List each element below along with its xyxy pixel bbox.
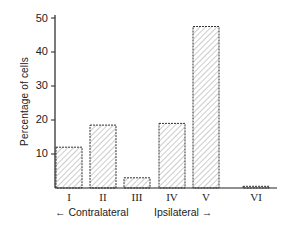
x-tick-label: IV bbox=[159, 191, 185, 203]
y-tick-label: 50 bbox=[28, 12, 48, 24]
ipsilateral-label: Ipsilateral → bbox=[154, 206, 212, 218]
bar-chart: Percentage of cells 10 20 30 40 50 I II … bbox=[0, 0, 288, 229]
y-tick-label: 10 bbox=[28, 147, 48, 159]
bar-V bbox=[193, 27, 219, 189]
x-tick-label: I bbox=[56, 191, 82, 203]
y-tick-label: 30 bbox=[28, 79, 48, 91]
y-tick-label: 40 bbox=[28, 45, 48, 57]
bars-group bbox=[56, 27, 269, 189]
x-tick-label: III bbox=[124, 191, 150, 203]
y-axis-label: Percentage of cells bbox=[19, 52, 30, 152]
x-tick-label: V bbox=[193, 191, 219, 203]
bar-II bbox=[90, 125, 116, 188]
bar-IV bbox=[159, 123, 185, 188]
bar-III bbox=[124, 178, 150, 188]
contralateral-label: ← Contralateral bbox=[55, 206, 129, 218]
x-tick-label: VI bbox=[243, 191, 269, 203]
x-tick-label: II bbox=[90, 191, 116, 203]
y-tick-label: 20 bbox=[28, 113, 48, 125]
bar-I bbox=[56, 147, 82, 188]
